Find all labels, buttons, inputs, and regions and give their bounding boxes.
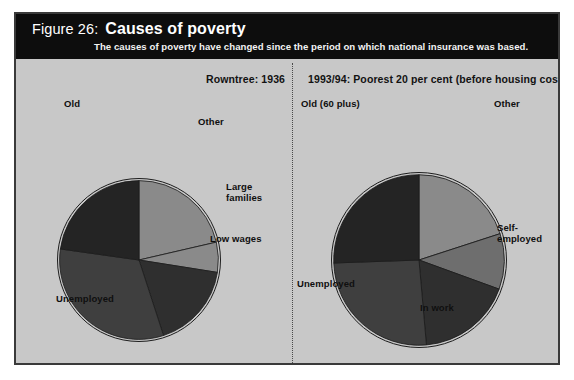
pie-chart-rowntree-1936 xyxy=(57,178,221,342)
right-label-self-employed: Self- employed xyxy=(497,222,557,244)
figure-number: Figure 26: xyxy=(32,21,98,37)
pie-slice-unemployed[interactable] xyxy=(334,260,427,345)
figure-header-band: Figure 26: Causes of poverty The causes … xyxy=(16,14,558,59)
right-label-in-work: In work xyxy=(420,302,454,313)
pie-slice-old[interactable] xyxy=(60,181,139,260)
figure-container: Figure 26: Causes of poverty The causes … xyxy=(0,0,574,380)
figure-panel: Figure 26: Causes of poverty The causes … xyxy=(14,12,560,365)
right-label-other: Other xyxy=(494,98,520,109)
left-label-large-families-line1: Large xyxy=(226,181,252,192)
pie-slice-old[interactable] xyxy=(334,175,419,263)
right-label-unemployed: Unemployed xyxy=(297,278,355,289)
left-label-large-families: Large families xyxy=(226,181,286,203)
pie-chart-poorest-20-1993-94 xyxy=(331,172,507,348)
left-label-other: Other xyxy=(198,116,224,127)
figure-subtitle: The causes of poverty have changed since… xyxy=(94,41,528,52)
left-label-unemployed: Unemployed xyxy=(56,293,114,304)
figure-title: Causes of poverty xyxy=(105,20,245,38)
left-chart-title: Rowntree: 1936 xyxy=(206,73,285,85)
right-label-old: Old (60 plus) xyxy=(301,98,360,109)
left-label-large-families-line2: families xyxy=(226,192,262,203)
figure-body: Rowntree: 1936 1993/94: Poorest 20 per c… xyxy=(16,59,558,365)
figure-heading: Figure 26: Causes of poverty xyxy=(32,20,246,38)
left-label-low-wages: Low wages xyxy=(210,233,262,244)
right-label-self-employed-line2: employed xyxy=(497,233,542,244)
right-chart-title: 1993/94: Poorest 20 per cent (before hou… xyxy=(308,73,560,85)
left-label-old: Old xyxy=(64,98,80,109)
chart-divider xyxy=(292,63,293,363)
right-label-self-employed-line1: Self- xyxy=(497,222,518,233)
